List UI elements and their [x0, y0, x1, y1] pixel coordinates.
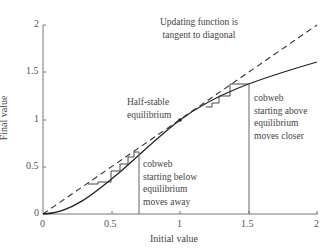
x-axis-label: Initial value: [150, 233, 198, 245]
equilibrium-point: [178, 118, 182, 122]
cobweb-below-line1: cobweb: [143, 158, 197, 171]
cobweb-below-line3: equilibrium: [143, 183, 197, 196]
y-tick-1: 1: [34, 113, 39, 124]
cobweb-above-line1: cobweb: [254, 92, 308, 105]
cobweb-above-line4: moves closer: [254, 130, 308, 143]
y-tick-2: 2: [34, 18, 39, 29]
x-tick-1.5: 1.5: [241, 218, 254, 229]
tangent-note: Updating function is tangent to diagonal: [134, 16, 264, 41]
x-tick-1: 1: [177, 218, 182, 229]
cobweb-below-line2: starting below: [143, 171, 197, 184]
cobweb-below: [88, 152, 139, 184]
cobweb-above-line3: equilibrium: [254, 117, 308, 130]
tangent-note-line2: tangent to diagonal: [134, 29, 264, 42]
x-tick-0.5: 0.5: [104, 218, 117, 229]
y-tick-0.5: 0.5: [26, 160, 39, 171]
y-tick-1.5: 1.5: [26, 65, 39, 76]
half-stable-line2: equilibrium: [127, 109, 171, 122]
half-stable-note: Half-stable equilibrium: [127, 96, 171, 121]
x-tick-0: 0: [40, 218, 45, 229]
tangent-note-line1: Updating function is: [134, 16, 264, 29]
y-tick-0: 0: [34, 207, 39, 218]
cobweb-above: [206, 84, 249, 107]
cobweb-above-note: cobweb starting above equilibrium moves …: [254, 92, 308, 142]
half-stable-line1: Half-stable: [127, 96, 171, 109]
cobweb-above-line2: starting above: [254, 105, 308, 118]
cobweb-below-line4: moves away: [143, 196, 197, 209]
x-tick-2: 2: [314, 218, 319, 229]
y-axis-label: Final value: [0, 96, 10, 141]
cobweb-below-note: cobweb starting below equilibrium moves …: [143, 158, 197, 208]
